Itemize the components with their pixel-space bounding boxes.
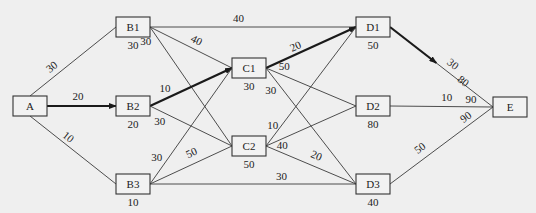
node-label: D3 <box>366 178 380 190</box>
edge-end-label: 80 <box>455 73 471 90</box>
edge-d1-e <box>390 27 436 63</box>
edge-weight-label: 50 <box>412 139 428 155</box>
edge-weight-label: 10 <box>160 82 172 94</box>
node-c2: C250 <box>232 136 266 170</box>
node-label: D2 <box>366 100 379 112</box>
node-value: 20 <box>128 118 140 130</box>
node-label: B1 <box>127 21 140 33</box>
edge-b1-c1 <box>150 27 232 68</box>
node-value: 50 <box>244 158 256 170</box>
edge-weight-label: 20 <box>309 148 324 164</box>
edge-weight-label: 30 <box>154 115 166 127</box>
edge-weight-label: 30 <box>151 151 163 163</box>
edge-a-b1 <box>30 27 116 96</box>
network-diagram: AB130B220B310C130C250D150D280D340E 30201… <box>0 0 536 213</box>
node-value: 10 <box>128 196 140 208</box>
edge-end-label: 90 <box>458 108 474 124</box>
edge-weight-label: 40 <box>189 32 205 48</box>
node-value: 30 <box>128 39 140 51</box>
node-label: B2 <box>127 100 140 112</box>
edge-weight-label: 40 <box>277 139 289 151</box>
edge-c2-d1 <box>266 27 356 146</box>
node-label: E <box>507 101 514 113</box>
edge-weight-label: 30 <box>445 56 461 73</box>
node-label: C2 <box>243 140 256 152</box>
edge-weight-label: 50 <box>279 60 291 72</box>
edge-weight-label: 50 <box>184 145 199 161</box>
node-label: B3 <box>127 178 140 190</box>
node-label: D1 <box>366 21 379 33</box>
edge-weight-label: 10 <box>441 91 453 103</box>
edge-a-b3 <box>30 116 116 184</box>
node-b2: B220 <box>116 96 150 130</box>
node-value: 40 <box>368 196 380 208</box>
edge-weight-label: 10 <box>267 119 279 131</box>
node-label: A <box>26 100 34 112</box>
edge-weight-label: 40 <box>233 12 245 24</box>
node-d1: D150 <box>356 17 390 51</box>
edge-weight-label: 30 <box>265 84 277 96</box>
node-b3: B310 <box>116 174 150 208</box>
edge-weight-label: 20 <box>73 90 85 102</box>
node-value: 50 <box>368 39 380 51</box>
node-e: E <box>493 97 527 117</box>
edge-weight-label: 30 <box>276 170 288 182</box>
edge-d2-e <box>390 106 493 107</box>
edge-weight-label: 30 <box>140 35 152 47</box>
edges-layer <box>30 27 493 184</box>
node-c1: C130 <box>232 58 266 92</box>
node-value: 30 <box>244 80 256 92</box>
node-value: 80 <box>368 118 380 130</box>
nodes-layer: AB130B220B310C130C250D150D280D340E <box>13 17 527 208</box>
node-label: C1 <box>243 62 256 74</box>
edge-end-label: 90 <box>466 93 478 105</box>
node-d3: D340 <box>356 174 390 208</box>
edge-d3-e <box>390 107 493 184</box>
node-d2: D280 <box>356 96 390 130</box>
node-a: A <box>13 96 47 116</box>
edge-weight-label: 30 <box>44 58 60 75</box>
